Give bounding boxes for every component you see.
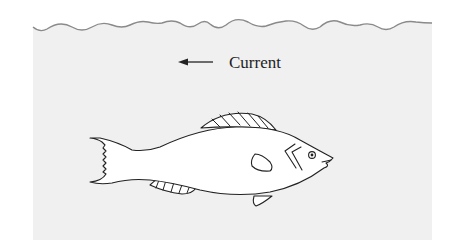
pupil [311, 154, 314, 157]
fish-current-diagram [0, 0, 460, 245]
current-label: Current [229, 54, 281, 71]
